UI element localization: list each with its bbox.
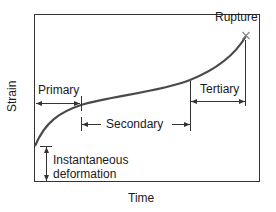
primary-label: Primary	[38, 84, 79, 97]
instantaneous-label-line1: Instantaneous	[53, 154, 128, 167]
secondary-label: Secondary	[106, 118, 163, 131]
tertiary-arrow	[191, 99, 245, 104]
instantaneous-arrow	[40, 147, 52, 182]
tertiary-label: Tertiary	[200, 83, 239, 96]
instantaneous-label-line2: deformation	[53, 168, 116, 181]
primary-arrow	[36, 101, 80, 106]
creep-curve-diagram	[0, 0, 276, 212]
y-axis-label: Strain	[5, 81, 19, 112]
x-axis-label: Time	[128, 192, 154, 205]
rupture-label: Rupture	[215, 11, 258, 24]
